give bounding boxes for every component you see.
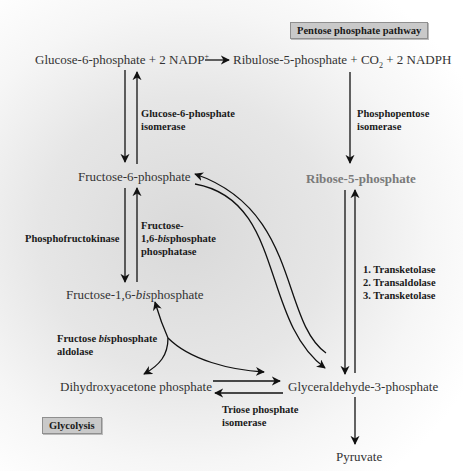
nadph-text: + 2 NADPH [383,52,451,67]
ribose-5-phosphate: Ribose-5-phosphate [306,171,416,187]
enzyme-phosphofructokinase: Phosphofructokinase [25,232,120,245]
glucose-6-phosphate: Glucose-6-phosphate + 2 NADP+ [35,52,209,68]
enzyme-line: Phosphopentose [357,107,429,120]
enzyme-line: isomerase [357,120,429,133]
ribulose-text: Ribulose-5-phosphate + CO [233,52,379,67]
arrow-g3p-to-f6p [195,174,326,353]
enzyme-fructose-bisphosphate-aldolase: Fructose bisphosphate aldolase [57,332,157,358]
enzyme-line: Glucose-6-phosphate [141,107,235,120]
enzyme-line: Fructose bisphosphate [57,332,157,345]
glycolysis-label: Glycolysis [42,417,102,434]
glucose-6-phosphate-text: Glucose-6-phosphate + 2 NADP [35,52,204,67]
arrow-aldolase-to-g3p [168,338,264,372]
enzyme-line: aldolase [57,345,157,358]
f16bp-text-italic: bis [136,287,151,302]
enzyme-text: Fructose [57,333,99,344]
enzyme-text-italic: bis [99,333,111,344]
enzyme-transketolase-transaldolase: 1. Transketolase 2. Transaldolase 3. Tra… [363,263,436,302]
enzyme-text-italic: bis [158,233,170,244]
enzyme-glucose-6-phosphate-isomerase: Glucose-6-phosphate isomerase [141,107,235,133]
fructose-1-6-bisphosphate: Fructose-1,6-bisphosphate [66,287,204,303]
f16bp-text-b: phosphate [151,287,204,302]
enzyme-line: Triose phosphate [222,403,299,416]
fructose-6-phosphate: Fructose-6-phosphate [78,169,191,185]
nadp-charge: + [204,52,209,61]
enzyme-triose-phosphate-isomerase: Triose phosphate isomerase [222,403,299,429]
dihydroxyacetone-phosphate: Dihydroxyacetone phosphate [60,379,212,395]
enzyme-line: isomerase [222,416,299,429]
enzyme-fructose-bisphosphate-phosphatase: Fructose- 1,6-bisphosphate phosphatase [141,219,216,258]
enzyme-line: 1. Transketolase [363,263,436,276]
enzyme-text: phosphate [170,233,216,244]
pyruvate: Pyruvate [336,449,382,465]
pentose-phosphate-pathway-label: Pentose phosphate pathway [290,22,428,39]
enzyme-line: Fructose- [141,219,216,232]
enzyme-line: phosphatase [141,245,216,258]
pathway-diagram: Pentose phosphate pathway Glycolysis Glu… [0,0,463,471]
arrow-f6p-to-g3p [195,184,325,368]
enzyme-line: isomerase [141,120,235,133]
enzyme-text: 1,6- [141,233,158,244]
glyceraldehyde-3-phosphate: Glyceraldehyde-3-phosphate [288,379,438,395]
enzyme-text: phosphate [111,333,157,344]
enzyme-phosphopentose-isomerase: Phosphopentose isomerase [357,107,429,133]
ribulose-5-phosphate: Ribulose-5-phosphate + CO2 + 2 NADPH [233,52,451,70]
enzyme-line: 1,6-bisphosphate [141,232,216,245]
enzyme-line: 2. Transaldolase [363,276,436,289]
f16bp-text-a: Fructose-1,6- [66,287,136,302]
enzyme-line: 3. Transketolase [363,289,436,302]
